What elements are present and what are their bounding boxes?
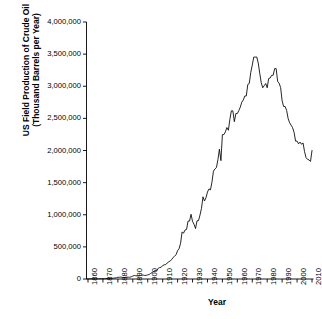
y-axis-tick-label: 2,000,000 [18, 147, 81, 155]
x-axis-tick-label: 2010 [315, 268, 322, 285]
x-axis-tick-label: 1950 [226, 268, 234, 285]
y-axis-tick-label: 0 [18, 275, 81, 283]
y-axis-tick-label: 3,000,000 [18, 82, 81, 90]
x-axis-title: Year [189, 297, 245, 307]
y-axis-tick-label: 2,500,000 [18, 114, 81, 122]
x-axis-tick-label: 1890 [136, 268, 144, 285]
x-axis-tick-label: 1970 [255, 268, 263, 285]
y-axis-tick-label: 3,500,000 [18, 50, 81, 58]
x-axis-tick-label: 1860 [91, 268, 99, 285]
y-axis-tick-label: 1,500,000 [18, 179, 81, 187]
x-axis-tick-label: 1940 [211, 268, 219, 285]
y-axis-tick-label: 1,000,000 [18, 211, 81, 219]
data-series-line [87, 57, 313, 279]
x-axis-tick-label: 1920 [181, 268, 189, 285]
x-axis-tick-label: 1880 [121, 268, 129, 285]
x-axis-tick-label: 1910 [166, 268, 174, 285]
x-axis-tick-label: 1980 [270, 268, 278, 285]
y-axis-tick-label: 4,000,000 [18, 18, 81, 26]
x-axis-tick-label: 1870 [106, 268, 114, 285]
x-axis-tick-label: 1990 [285, 268, 293, 285]
y-axis-tick-label: 500,000 [18, 243, 81, 251]
axis-spines [87, 22, 314, 279]
x-axis-tick-label: 1960 [241, 268, 249, 285]
x-axis-tick-label: 1900 [151, 268, 159, 285]
x-axis-tick-label: 2000 [300, 268, 308, 285]
crude-oil-production-chart: US Field Production of Crude Oil (Thousa… [0, 0, 322, 319]
x-axis-tick-label: 1930 [196, 268, 204, 285]
